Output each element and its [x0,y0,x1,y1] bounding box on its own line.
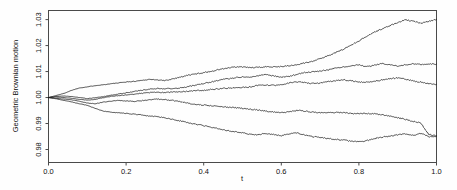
y-axis-title: Geometric Brownian motion [11,40,20,133]
y-tick-label: 0.98 [35,142,44,157]
y-tick-label: 1.02 [35,38,44,53]
y-tick-label: 1.03 [35,12,44,27]
x-tick-label: 0.8 [354,167,364,176]
y-tick-label: 1.01 [35,64,44,79]
x-tick-label: 0.6 [276,167,286,176]
x-tick-label: 1.0 [431,167,441,176]
chart-background [0,0,457,190]
chart-figure: 0.00.20.40.60.81.0 0.980.991.001.011.021… [0,0,457,190]
x-tick-label: 0.2 [121,167,131,176]
x-tick-label: 0.0 [43,167,53,176]
x-tick-label: 0.4 [198,167,208,176]
y-tick-label: 0.99 [35,116,44,131]
geometric-brownian-motion-chart: 0.00.20.40.60.81.0 0.980.991.001.011.021… [0,0,457,190]
y-tick-label: 1.00 [35,90,44,105]
